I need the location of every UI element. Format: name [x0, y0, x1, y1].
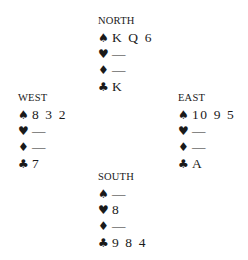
suit-row-hearts: ♥ —: [98, 46, 153, 62]
diamond-icon: ♦: [178, 139, 190, 155]
cards-clubs: 7: [32, 156, 40, 172]
suit-row-clubs: ♣ K: [98, 79, 153, 95]
suit-row-spades: ♠ 10 9 5: [178, 107, 235, 123]
suit-row-diamonds: ♦ —: [178, 139, 235, 155]
club-icon: ♣: [178, 156, 190, 172]
hand-west: WEST ♠ 8 3 2 ♥ — ♦ — ♣ 7: [18, 91, 67, 172]
suit-row-clubs: ♣ 7: [18, 156, 67, 172]
cards-clubs: 9 8 4: [112, 235, 147, 251]
suit-row-diamonds: ♦ —: [18, 139, 67, 155]
cards-clubs: K: [112, 79, 123, 95]
suit-row-hearts: ♥ —: [178, 123, 235, 139]
heart-icon: ♥: [178, 123, 190, 139]
suit-row-clubs: ♣ A: [178, 156, 235, 172]
cards-diamonds: —: [192, 139, 207, 155]
club-icon: ♣: [98, 235, 110, 251]
diamond-icon: ♦: [98, 218, 110, 234]
hand-title-west: WEST: [18, 91, 67, 104]
heart-icon: ♥: [18, 123, 30, 139]
suit-row-spades: ♠ K Q 6: [98, 30, 153, 46]
suit-row-hearts: ♥ 8: [98, 202, 147, 218]
cards-spades: —: [112, 186, 127, 202]
hand-east: EAST ♠ 10 9 5 ♥ — ♦ — ♣ A: [178, 91, 235, 172]
hand-south: SOUTH ♠ — ♥ 8 ♦ — ♣ 9 8 4: [98, 170, 147, 251]
cards-spades: 10 9 5: [192, 107, 235, 123]
spade-icon: ♠: [178, 107, 190, 123]
suit-row-hearts: ♥ —: [18, 123, 67, 139]
cards-diamonds: —: [112, 62, 127, 78]
heart-icon: ♥: [98, 46, 110, 62]
cards-diamonds: —: [112, 218, 127, 234]
cards-hearts: —: [192, 123, 207, 139]
club-icon: ♣: [18, 156, 30, 172]
suit-row-clubs: ♣ 9 8 4: [98, 235, 147, 251]
spade-icon: ♠: [98, 186, 110, 202]
cards-hearts: —: [32, 123, 47, 139]
suit-row-diamonds: ♦ —: [98, 218, 147, 234]
cards-hearts: 8: [112, 202, 120, 218]
hand-north: NORTH ♠ K Q 6 ♥ — ♦ — ♣ K: [98, 14, 153, 95]
suit-row-diamonds: ♦ —: [98, 62, 153, 78]
spade-icon: ♠: [18, 107, 30, 123]
cards-hearts: —: [112, 46, 127, 62]
cards-clubs: A: [192, 156, 203, 172]
cards-diamonds: —: [32, 139, 47, 155]
diamond-icon: ♦: [98, 62, 110, 78]
suit-row-spades: ♠ —: [98, 186, 147, 202]
hand-title-east: EAST: [178, 91, 235, 104]
spade-icon: ♠: [98, 30, 110, 46]
club-icon: ♣: [98, 79, 110, 95]
hand-title-north: NORTH: [98, 14, 153, 27]
heart-icon: ♥: [98, 202, 110, 218]
cards-spades: K Q 6: [112, 30, 153, 46]
cards-spades: 8 3 2: [32, 107, 67, 123]
hand-title-south: SOUTH: [98, 170, 147, 183]
suit-row-spades: ♠ 8 3 2: [18, 107, 67, 123]
diamond-icon: ♦: [18, 139, 30, 155]
